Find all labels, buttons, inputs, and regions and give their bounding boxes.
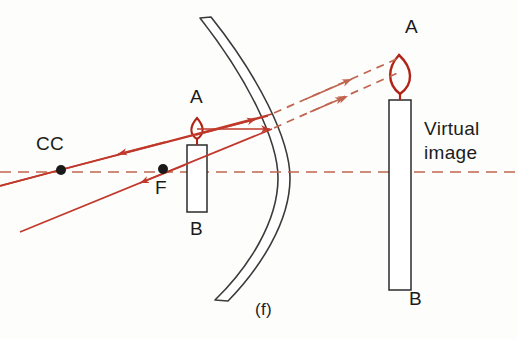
panel-label: (f): [255, 300, 272, 320]
label-object-bottom: B: [190, 218, 203, 240]
label-image-bottom: B: [409, 288, 422, 310]
ray-diagram-figure: CC F A B A B Virtual image (f): [0, 0, 517, 339]
mirror-body: [200, 17, 290, 301]
label-image-top: A: [405, 16, 418, 38]
convex-mirror: [200, 17, 290, 301]
image-candle-body: [389, 100, 411, 290]
label-virtual-image-line2: image: [424, 141, 477, 165]
label-center-of-curvature: CC: [36, 133, 64, 155]
ray1-extension-arrowhead: [310, 97, 345, 112]
label-virtual-image-line1: Virtual: [424, 117, 480, 141]
object-candle-body: [187, 145, 207, 212]
focal-point-dot: [158, 164, 168, 174]
center-of-curvature-dot: [56, 165, 66, 175]
diagram-canvas: [0, 0, 517, 339]
virtual-image-candle: [389, 55, 411, 290]
label-object-top: A: [190, 86, 203, 108]
label-focal-point: F: [155, 177, 167, 199]
ray2-reflected-arrow: [118, 142, 165, 154]
